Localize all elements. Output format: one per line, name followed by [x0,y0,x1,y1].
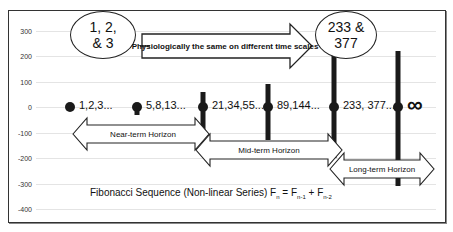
mid-term-label: Mid-term Horizon [238,146,299,155]
near-term-label: Near-term Horizon [110,130,176,139]
physio-arrow-label: Physiologically the same on different ti… [132,42,319,51]
ellipse-233-377: 233 & 377 [315,11,377,59]
long-term-label: Long-term Horizon [349,165,415,174]
chart-title: Fibonacci Sequence (Non-linear Series) F… [90,187,332,200]
ellipse-1-2-3: 1, 2, & 3 [70,11,136,59]
